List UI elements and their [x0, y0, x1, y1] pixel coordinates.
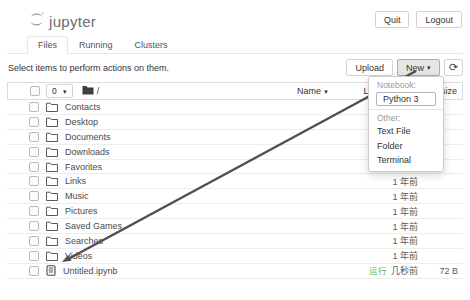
file-name-link[interactable]: Downloads — [65, 147, 110, 157]
breadcrumb[interactable]: / — [82, 85, 100, 97]
file-name-link[interactable]: Desktop — [65, 117, 98, 127]
jupyter-file-browser: jupyter Quit Logout Files Running Cluste… — [0, 0, 470, 300]
row-checkbox[interactable] — [29, 251, 39, 261]
row-checkbox[interactable] — [29, 206, 39, 216]
file-name-link[interactable]: Untitled.ipynb — [63, 266, 118, 276]
folder-icon — [46, 221, 58, 231]
row-checkbox[interactable] — [29, 132, 39, 142]
folder-icon — [46, 132, 58, 142]
list-item: Searches 1 年前 — [7, 234, 463, 249]
selection-count-button[interactable]: 0 ▾ — [46, 84, 73, 98]
logout-button[interactable]: Logout — [416, 11, 462, 28]
file-name-link[interactable]: Music — [65, 191, 89, 201]
list-item: Music 1 年前 — [7, 189, 463, 204]
list-item: Saved Games 1 年前 — [7, 219, 463, 234]
folder-icon — [46, 162, 58, 172]
file-name-link[interactable]: Favorites — [65, 162, 102, 172]
notebook-icon — [46, 265, 56, 276]
last-modified-cell: 1 年前 — [330, 249, 418, 262]
jupyter-logo-icon — [27, 10, 46, 33]
list-item: Untitled.ipynb 运行几秒前 72 B — [7, 264, 463, 279]
list-item: Videos 1 年前 — [7, 249, 463, 264]
select-all-checkbox[interactable] — [30, 86, 40, 96]
new-dropdown-menu: Notebook: Python 3 Other: Text File Fold… — [368, 76, 444, 172]
folder-icon — [46, 191, 58, 201]
file-name-link[interactable]: Links — [65, 176, 86, 186]
folder-icon — [46, 117, 58, 127]
folder-icon — [46, 176, 58, 186]
file-name-link[interactable]: Videos — [65, 251, 92, 261]
menu-item-text-file[interactable]: Text File — [369, 124, 443, 139]
other-section-header: Other: — [369, 112, 443, 124]
file-name-link[interactable]: Saved Games — [65, 221, 122, 231]
tab-clusters[interactable]: Clusters — [124, 36, 179, 54]
tab-files[interactable]: Files — [27, 36, 68, 54]
last-modified-cell: 1 年前 — [330, 190, 418, 203]
menu-item-folder[interactable]: Folder — [369, 139, 443, 154]
folder-icon — [82, 85, 94, 97]
row-checkbox[interactable] — [29, 102, 39, 112]
folder-icon — [46, 206, 58, 216]
row-checkbox[interactable] — [29, 147, 39, 157]
last-modified-cell: 1 年前 — [330, 234, 418, 247]
row-checkbox[interactable] — [29, 191, 39, 201]
app-header: jupyter Quit Logout — [0, 8, 470, 34]
running-status: 运行 — [369, 266, 387, 276]
menu-item-python3[interactable]: Python 3 — [376, 92, 436, 106]
list-item: Links 1 年前 — [7, 174, 463, 189]
file-name-link[interactable]: Documents — [65, 132, 111, 142]
row-checkbox[interactable] — [29, 117, 39, 127]
row-checkbox[interactable] — [29, 162, 39, 172]
refresh-button[interactable]: ⟳ — [444, 59, 463, 76]
jupyter-logo[interactable]: jupyter — [27, 10, 96, 33]
quit-button[interactable]: Quit — [375, 11, 410, 28]
last-modified-cell: 1 年前 — [330, 175, 418, 188]
folder-icon — [46, 102, 58, 112]
last-modified-cell: 运行几秒前 — [330, 264, 418, 277]
notebook-section-header: Notebook: — [369, 79, 443, 91]
last-modified-cell: 1 年前 — [330, 220, 418, 233]
tab-bar: Files Running Clusters — [7, 36, 463, 54]
new-button[interactable]: New ▾ — [397, 59, 440, 76]
row-checkbox[interactable] — [29, 266, 39, 276]
list-item: Pictures 1 年前 — [7, 204, 463, 219]
folder-icon — [46, 147, 58, 157]
chevron-down-icon: ▾ — [427, 64, 431, 71]
row-checkbox[interactable] — [29, 236, 39, 246]
logo-text: jupyter — [49, 13, 96, 30]
upload-button[interactable]: Upload — [346, 59, 393, 76]
file-name-link[interactable]: Searches — [65, 236, 103, 246]
row-checkbox[interactable] — [29, 221, 39, 231]
sort-header-name[interactable]: Name▼ — [297, 86, 329, 96]
select-items-hint: Select items to perform actions on them. — [8, 63, 169, 73]
folder-icon — [46, 251, 58, 261]
refresh-icon: ⟳ — [449, 62, 458, 73]
tab-running[interactable]: Running — [68, 36, 124, 54]
row-checkbox[interactable] — [29, 176, 39, 186]
menu-item-terminal[interactable]: Terminal — [369, 153, 443, 168]
menu-divider — [369, 109, 443, 110]
file-size-cell: 72 B — [418, 266, 458, 276]
file-name-link[interactable]: Pictures — [65, 206, 98, 216]
last-modified-cell: 1 年前 — [330, 205, 418, 218]
chevron-down-icon: ▾ — [63, 88, 67, 95]
folder-icon — [46, 236, 58, 246]
file-name-link[interactable]: Contacts — [65, 102, 101, 112]
